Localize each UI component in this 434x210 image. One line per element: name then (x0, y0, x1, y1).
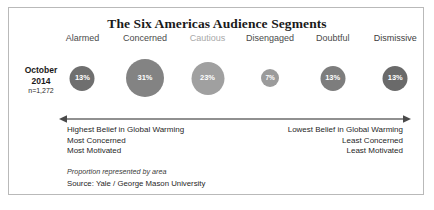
bubble-doubtful[interactable]: 13% (320, 66, 345, 91)
extreme-line: Highest Belief in Global Warming (67, 125, 184, 136)
bubble-slot-concerned: 31% (124, 52, 166, 104)
bubble-slot-cautious: 23% (189, 52, 226, 104)
segment-label-disengaged: Disengaged (246, 33, 294, 43)
segment-header-row: AlarmedConcernedCautiousDisengagedDoubtf… (53, 33, 421, 47)
bubble-dismissive[interactable]: 13% (383, 66, 408, 91)
belief-spectrum-arrow (59, 111, 411, 123)
chart-footer: Proportion represented by area Source: Y… (67, 166, 205, 190)
extreme-line: Least Concerned (288, 136, 403, 147)
bubble-slot-doubtful: 13% (318, 52, 347, 104)
bubble-concerned[interactable]: 31% (126, 59, 164, 97)
bubble-value-label: 13% (325, 74, 340, 82)
bubble-slot-dismissive: 13% (381, 52, 410, 104)
segment-label-alarmed: Alarmed (66, 33, 100, 43)
bubble-cautious[interactable]: 23% (191, 62, 224, 95)
extreme-line: Least Motivated (288, 146, 403, 157)
extreme-description-right: Lowest Belief in Global WarmingLeast Con… (288, 125, 403, 157)
bubble-value-label: 13% (388, 74, 403, 82)
bubble-value-label: 31% (137, 74, 152, 82)
double-arrow-icon (59, 113, 411, 125)
source-line: Source: Yale / George Mason University (67, 177, 205, 190)
bubble-disengaged[interactable]: 7% (261, 69, 279, 87)
bubble-slot-alarmed: 13% (68, 52, 97, 104)
segment-label-doubtful: Doubtful (316, 33, 350, 43)
segment-label-dismissive: Dismissive (374, 33, 417, 43)
extreme-line: Lowest Belief in Global Warming (288, 125, 403, 136)
bubble-value-label: 23% (200, 74, 215, 82)
encoding-note: Proportion represented by area (67, 166, 205, 177)
extreme-line: Most Motivated (67, 146, 184, 157)
segment-label-concerned: Concerned (123, 33, 167, 43)
page-title: The Six Americas Audience Segments (9, 16, 425, 32)
bubble-value-label: 13% (75, 74, 90, 82)
segment-bubble-row: 13%31%23%7%13%13% (53, 52, 421, 104)
bubble-slot-disengaged: 7% (259, 52, 281, 104)
bubble-value-label: 7% (265, 75, 274, 82)
bubble-alarmed[interactable]: 13% (70, 66, 95, 91)
extreme-line: Most Concerned (67, 136, 184, 147)
chart-card: The Six Americas Audience Segments Alarm… (8, 7, 424, 195)
segment-label-cautious: Cautious (190, 33, 226, 43)
extreme-description-left: Highest Belief in Global WarmingMost Con… (67, 125, 184, 157)
